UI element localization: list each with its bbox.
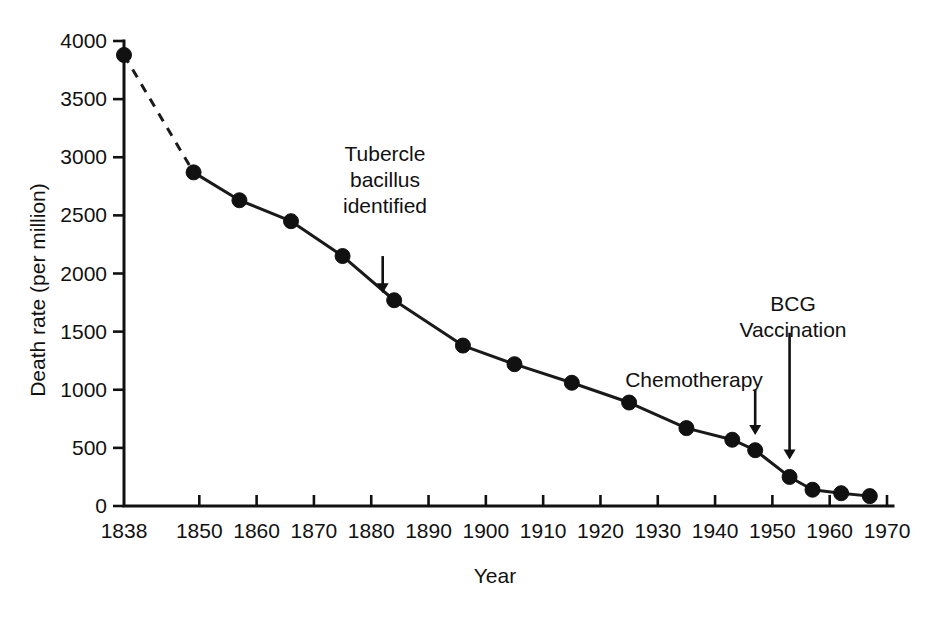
x-tick-label-1880: 1880 — [348, 519, 395, 542]
axis-lines — [124, 41, 893, 506]
x-tick-label-1970: 1970 — [864, 519, 911, 542]
annotation-arrowhead-chemotherapy — [749, 425, 761, 435]
data-point-1884 — [387, 293, 402, 308]
data-series-group — [117, 47, 878, 503]
x-tick-label-1860: 1860 — [233, 519, 280, 542]
tuberculosis-death-rate-line-chart: 05001000150020002500300035004000 1838185… — [0, 0, 929, 617]
x-tick-label-1930: 1930 — [634, 519, 681, 542]
annotation-label-chemotherapy: Chemotherapy — [625, 368, 763, 391]
annotation-label-bcg: BCG — [770, 292, 816, 315]
y-tick-label-4000: 4000 — [60, 29, 107, 52]
annotation-label-tubercle: Tubercle — [345, 142, 426, 165]
annotation-arrowhead-bcg — [784, 450, 796, 460]
x-tick-label-1960: 1960 — [806, 519, 853, 542]
x-tick-label-1910: 1910 — [520, 519, 567, 542]
data-point-1967 — [862, 489, 877, 504]
data-point-1943 — [725, 432, 740, 447]
chart-container: 05001000150020002500300035004000 1838185… — [0, 0, 929, 617]
data-point-1875 — [335, 249, 350, 264]
annotation-label-bcg: Vaccination — [739, 318, 846, 341]
x-tick-label-1950: 1950 — [749, 519, 796, 542]
annotation-label-tubercle: identified — [343, 194, 427, 217]
data-point-1838 — [117, 47, 132, 62]
data-point-1953 — [782, 469, 797, 484]
y-tick-label-3000: 3000 — [60, 145, 107, 168]
annotation-tubercle: Tuberclebacillusidentified — [343, 142, 427, 293]
y-tick-label-1000: 1000 — [60, 378, 107, 401]
annotations-group: TuberclebacillusidentifiedChemotherapyBC… — [343, 142, 847, 460]
y-tick-label-2500: 2500 — [60, 203, 107, 226]
x-tick-label-1838: 1838 — [101, 519, 148, 542]
series-dashed-segment — [124, 55, 194, 172]
data-point-1915 — [564, 375, 579, 390]
data-point-1935 — [679, 421, 694, 436]
series-data-point-markers — [117, 47, 878, 503]
x-axis-ticks — [199, 495, 887, 506]
data-point-1849 — [186, 165, 201, 180]
annotation-label-tubercle: bacillus — [350, 168, 420, 191]
y-tick-label-0: 0 — [95, 494, 107, 517]
annotation-chemotherapy: Chemotherapy — [625, 368, 763, 435]
axes-group: 05001000150020002500300035004000 1838185… — [60, 29, 910, 542]
data-point-1857 — [232, 193, 247, 208]
x-tick-label-1920: 1920 — [577, 519, 624, 542]
x-tick-label-1870: 1870 — [291, 519, 338, 542]
data-point-1905 — [507, 357, 522, 372]
y-tick-label-500: 500 — [72, 436, 107, 459]
x-tick-label-1850: 1850 — [176, 519, 223, 542]
x-tick-label-1940: 1940 — [692, 519, 739, 542]
data-point-1866 — [284, 214, 299, 229]
x-axis-tick-labels: 1838185018601870188018901900191019201930… — [101, 519, 911, 542]
y-tick-label-2000: 2000 — [60, 262, 107, 285]
y-axis-tick-labels: 05001000150020002500300035004000 — [60, 29, 107, 517]
x-axis-title: Year — [474, 564, 516, 587]
data-point-1947 — [748, 443, 763, 458]
y-tick-label-1500: 1500 — [60, 320, 107, 343]
y-axis-title: Death rate (per million) — [26, 183, 49, 397]
data-point-1925 — [622, 395, 637, 410]
y-axis-ticks — [113, 41, 124, 506]
data-point-1896 — [455, 338, 470, 353]
data-point-1957 — [805, 482, 820, 497]
x-tick-label-1900: 1900 — [462, 519, 509, 542]
x-tick-label-1890: 1890 — [405, 519, 452, 542]
data-point-1962 — [834, 486, 849, 501]
y-tick-label-3500: 3500 — [60, 87, 107, 110]
